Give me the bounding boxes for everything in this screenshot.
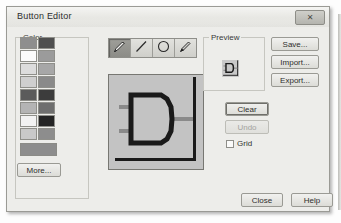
close-dialog-button[interactable]: Close xyxy=(241,193,283,207)
color-swatch[interactable] xyxy=(20,76,37,88)
close-icon: ✕ xyxy=(307,14,314,22)
save-button-label: Save... xyxy=(283,40,308,49)
color-swatch[interactable] xyxy=(38,128,55,140)
color-swatch[interactable] xyxy=(20,50,37,62)
color-swatch[interactable] xyxy=(20,63,37,75)
grid-checkbox-row[interactable]: Grid xyxy=(226,139,252,148)
line-tool[interactable] xyxy=(131,39,153,57)
color-swatch[interactable] xyxy=(38,37,55,49)
undo-button: Undo xyxy=(225,120,269,134)
clear-button-label: Clear xyxy=(237,105,256,114)
close-dialog-label: Close xyxy=(252,196,272,205)
color-swatch[interactable] xyxy=(20,37,37,49)
help-button[interactable]: Help xyxy=(291,193,333,207)
color-swatch[interactable] xyxy=(38,89,55,101)
tool-palette[interactable] xyxy=(108,38,197,58)
export-button-label: Export... xyxy=(280,76,310,85)
export-button[interactable]: Export... xyxy=(271,73,319,87)
title-bar[interactable]: Button Editor ✕ xyxy=(7,7,329,28)
line-icon xyxy=(134,39,149,58)
color-swatch[interactable] xyxy=(38,115,55,127)
grid-checkbox-label: Grid xyxy=(237,139,252,148)
close-button[interactable]: ✕ xyxy=(295,10,325,25)
clear-button[interactable]: Clear xyxy=(225,102,269,116)
color-swatch[interactable] xyxy=(20,115,37,127)
grid-checkbox[interactable] xyxy=(226,140,234,148)
more-colors-label: More... xyxy=(27,166,52,175)
import-button[interactable]: Import... xyxy=(271,55,319,69)
color-swatch[interactable] xyxy=(38,50,55,62)
preview-group-label: Preview xyxy=(209,33,241,42)
pencil-icon xyxy=(112,39,127,58)
button-editor-dialog: Button Editor ✕ Color xyxy=(6,6,330,212)
fill-tool[interactable] xyxy=(175,39,196,57)
more-colors-button[interactable]: More... xyxy=(17,163,61,177)
screenshot-root: Button Editor ✕ Color xyxy=(0,0,341,223)
preview-group: Preview xyxy=(203,37,265,91)
color-swatch[interactable] xyxy=(20,89,37,101)
ellipse-tool[interactable] xyxy=(153,39,175,57)
import-button-label: Import... xyxy=(280,58,309,67)
ellipse-icon xyxy=(156,39,171,58)
color-swatch[interactable] xyxy=(20,102,37,114)
color-swatch[interactable] xyxy=(38,102,55,114)
color-swatch-grid[interactable] xyxy=(20,37,55,140)
fill-pencil-icon xyxy=(178,39,193,58)
selected-color-preview xyxy=(20,143,57,156)
undo-button-label: Undo xyxy=(237,123,256,132)
dialog-body: Color More xyxy=(7,27,329,211)
color-swatch[interactable] xyxy=(38,76,55,88)
and-gate-drawing xyxy=(109,75,203,169)
pencil-tool[interactable] xyxy=(109,39,131,57)
pixel-canvas[interactable] xyxy=(108,74,204,170)
color-swatch[interactable] xyxy=(38,63,55,75)
color-swatch[interactable] xyxy=(20,128,37,140)
preview-thumbnail xyxy=(222,60,239,77)
save-button[interactable]: Save... xyxy=(271,37,319,51)
help-button-label: Help xyxy=(304,196,320,205)
window-title: Button Editor xyxy=(17,11,72,21)
